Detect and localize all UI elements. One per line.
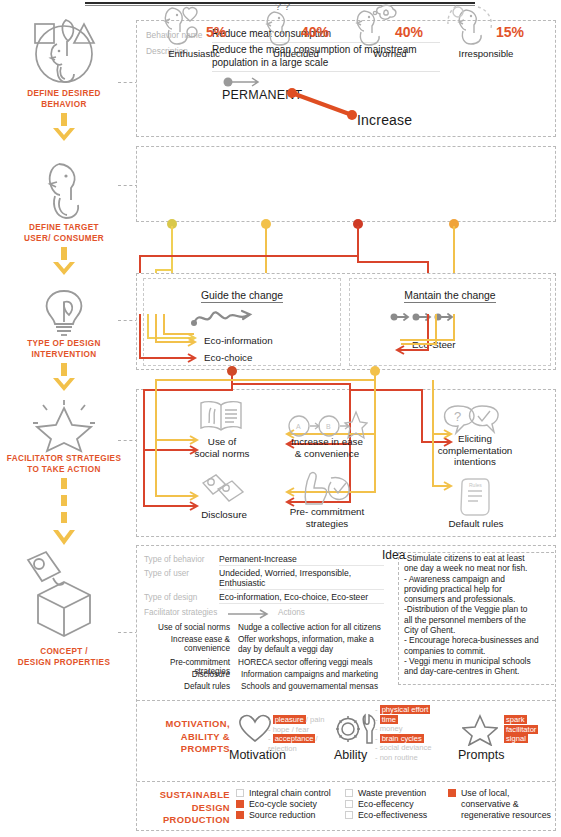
concept-divider-1: [137, 700, 555, 701]
permanent-arrow-icon: [222, 76, 264, 88]
tags-icon: [200, 473, 248, 507]
fac-4-line1: Eliciting: [458, 433, 492, 444]
rules-card-icon: Rules: [458, 477, 492, 517]
checkbox-use-of-local[interactable]: [448, 789, 456, 797]
rail-label-1-line2: BEHAVIOR: [41, 100, 86, 109]
rail-label-2-line2: USER/ CONSUMER: [24, 234, 104, 243]
increase-label: Increase: [357, 112, 412, 128]
svg-text:B: B: [326, 423, 331, 430]
map-item-acceptance: acceptance: [273, 734, 316, 743]
user-card-undecided[interactable]: ? ? 40% Undecided: [244, 4, 348, 59]
handshake-check-icon: [298, 470, 356, 506]
concept-key-type-of-design: Type of design: [144, 593, 197, 602]
person-dashed-icon: [444, 4, 502, 46]
map-item-rejection: rejection: [268, 744, 297, 753]
facilitator-label-pre-commitment: Pre- commitment strategies: [272, 506, 382, 529]
sd-head-line3: PRODUCTION: [163, 814, 230, 825]
user-card-worried[interactable]: 40% Worried: [338, 4, 442, 59]
down-arrow-icon-3: [50, 363, 78, 393]
dash-a1: -: [375, 715, 380, 724]
user-card-enthusiastic[interactable]: 5% Enthusiastic: [142, 4, 246, 59]
svg-text:Rules: Rules: [469, 482, 482, 488]
svg-text:?: ?: [284, 4, 290, 12]
rail-label-1: DEFINE DESIRED BEHAVIOR: [0, 88, 128, 110]
facilitator-label-eliciting: Eliciting complementation intentions: [412, 433, 538, 468]
sustainable-col2[interactable]: Waste prevention Eco-effecency Eco-effec…: [345, 788, 427, 822]
rail-step-concept-design-properties[interactable]: CONCEPT / DESIGN PROPERTIES: [0, 550, 128, 668]
svg-text:?: ?: [454, 409, 461, 424]
user-pct-worried: 40%: [395, 24, 423, 40]
checkbox-eco-effectiveness[interactable]: [345, 811, 353, 819]
strategy-action-2: HORECA sector offering veggi meals: [238, 658, 398, 668]
label-waste-prevention: Waste prevention: [358, 788, 426, 798]
map-items-prompts: spark facilitator signal: [504, 715, 538, 744]
strategy-action-4: Schools and gouvernamental mensas: [241, 682, 411, 692]
label-eco-cycle-society: Eco-cycle society: [249, 799, 317, 809]
idea-line-2: - Awareness campaign and: [404, 574, 505, 584]
idea-line-7: City of Ghent.: [404, 625, 455, 635]
map-item-hope-fear: hope / fear: [273, 725, 309, 734]
checkbox-waste-prevention[interactable]: [345, 789, 353, 797]
fac-0-line2: social norms: [195, 448, 250, 459]
strategy-action-1-line2: day by default a veggi day: [238, 645, 333, 654]
rail-label-2: DEFINE TARGET USER/ CONSUMER: [0, 222, 128, 244]
checkbox-source-reduction[interactable]: [236, 811, 244, 819]
map-heading: MOTIVATION, ABILITY & PROMPTS: [140, 718, 230, 756]
user-name-worried: Worried: [338, 48, 442, 59]
strategy-action-3: Information campaigns and marketing: [241, 670, 401, 680]
sustainable-col1[interactable]: Integral chain control Eco-cycle society…: [236, 788, 331, 822]
sustainable-col3[interactable]: Use of local, conservative & regenerativ…: [448, 788, 556, 822]
idea-line-6: all the personnel members of the: [404, 615, 526, 625]
down-arrow-icon-4: [50, 478, 78, 550]
concept-hline-1: [219, 565, 384, 566]
user-name-undecided: Undecided: [244, 48, 348, 59]
rail-label-2-line1: DEFINE TARGET: [29, 223, 99, 232]
idea-line-3: providing practical help for: [404, 584, 502, 594]
idea-text: -Stimulate citizens to eat at least one …: [404, 553, 556, 677]
rail-step-define-target-user[interactable]: DEFINE TARGET USER/ CONSUMER: [0, 160, 128, 277]
strategy-name-3: Disclosure: [134, 670, 230, 679]
svg-text:?: ?: [275, 4, 281, 12]
map-items-ability: - physical effort - time - money - brain…: [375, 705, 432, 763]
svg-text:A: A: [296, 423, 301, 430]
idea-line-0: -Stimulate citizens to eat at least: [404, 553, 525, 563]
gear-wrench-icon: [334, 713, 378, 745]
rail-label-4-line2: TO TAKE ACTION: [27, 465, 100, 474]
fac-2-line1: Increase in ease: [291, 436, 363, 447]
concept-table-header-right: Actions: [278, 608, 305, 617]
user-card-irresponsible[interactable]: 15% Irresponsible: [434, 4, 538, 59]
checkbox-integral-chain-control[interactable]: [236, 789, 244, 797]
strategy-action-1-line1: Offer workshops, information, make a: [238, 635, 374, 644]
rail-label-3-line1: TYPE OF DESIGN: [27, 339, 101, 348]
fac-3-line2: strategies: [306, 518, 348, 529]
user-pct-undecided: 40%: [301, 24, 329, 40]
rail-step-type-of-design-intervention[interactable]: TYPE OF DESIGN INTERVENTION: [0, 288, 128, 393]
dash-a3: -: [375, 734, 380, 743]
strategy-name-0: Use of social norms: [140, 623, 230, 632]
lightbulb-leaf-icon: [38, 288, 90, 338]
rail-step-define-desired-behavior[interactable]: DEFINE DESIRED BEHAVIOR: [0, 10, 128, 143]
idea-line-4: consumers and professionals.: [404, 594, 515, 604]
concept-value-type-of-design: Eco-information, Eco-choice, Eco-steer: [219, 592, 368, 602]
fac-0-line1: Use of: [208, 436, 236, 447]
connector-nub-4: [118, 440, 138, 441]
concept-key-type-of-user: Type of user: [144, 569, 189, 578]
rail-label-4-line1: FACILITATOR STRATEGIES: [7, 454, 121, 463]
checkbox-eco-cycle-society[interactable]: [236, 800, 244, 808]
rail-step-facilitator-strategies[interactable]: FACILITATOR STRATEGIES TO TAKE ACTION: [0, 395, 128, 550]
user-pct-enthusiastic: 5%: [206, 24, 226, 40]
rail-label-5-line1: CONCEPT /: [40, 647, 88, 656]
dash-a0: -: [375, 705, 380, 714]
concept-hline-3: [219, 603, 384, 604]
user-pct-irresponsible: 15%: [496, 24, 524, 40]
checkbox-eco-effecency[interactable]: [345, 800, 353, 808]
fac-2-line2: & convenience: [295, 448, 359, 459]
concept-divider-2: [137, 781, 555, 782]
open-book-icon: [198, 399, 244, 433]
map-head-line1: MOTIVATION,: [166, 718, 230, 729]
map-item-brain-cycles: brain cycles: [380, 734, 424, 743]
fac-4-line3: intentions: [454, 456, 496, 467]
idea-line-10: - Veggi menu in municipal schools: [404, 656, 531, 666]
label-eco-effecency: Eco-effecency: [358, 799, 414, 809]
connector-nub-3: [118, 320, 138, 321]
